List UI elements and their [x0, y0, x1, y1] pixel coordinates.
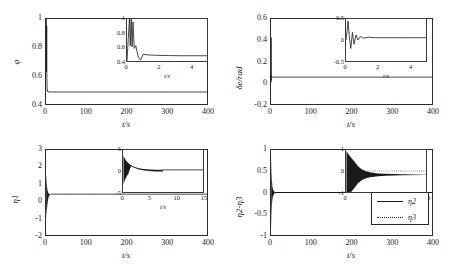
xlabel-eta1-text: t/s — [122, 250, 130, 260]
ytick-delta-02: 0.2 — [241, 58, 267, 66]
xlabel-phi: t/s — [122, 119, 130, 129]
ytick-eta1-inset-5: 5 — [103, 146, 121, 153]
ylabel-eta1: η1 — [10, 195, 20, 204]
plot-eta1-inset — [123, 150, 203, 192]
ylabel-delta-text: δe/rad — [234, 66, 244, 89]
ylabel-phi-text: φ — [11, 60, 21, 65]
inset-phi: 1 0.8 0.6 0.4 0 2 4 t/s — [116, 17, 209, 64]
xtick-eta1-300: 300 — [161, 239, 173, 247]
legend-entry-eta3: η3 — [372, 209, 428, 225]
ytick-phi-08: 0.8 — [20, 43, 42, 51]
xtick-delta-400: 400 — [427, 108, 439, 116]
ytick-eta23-05: 0.5 — [241, 167, 267, 175]
xtick-delta-inset-4: 4 — [409, 64, 412, 71]
xtick-eta1-inset-0: 0 — [120, 195, 123, 202]
xlabel-delta-text: t/s — [347, 119, 355, 129]
axes-delta-inset — [345, 18, 427, 62]
xlabel-eta1: t/s — [122, 250, 130, 260]
ytick-eta1-3: 3 — [22, 145, 42, 153]
ytick-phi-inset-04: 0.4 — [107, 59, 125, 66]
ylabel-eta1-text: η1 — [10, 195, 20, 204]
xlabel-eta23: t/s — [347, 250, 355, 260]
ytick-delta-04: 0.4 — [241, 36, 267, 44]
xtick-eta1-inset-5: 5 — [148, 195, 151, 202]
ytick-eta23-m05: -0.5 — [241, 210, 267, 218]
ytick-eta23-inset-m1: -1 — [326, 190, 344, 197]
ytick-delta-inset-m05: -0.5 — [324, 59, 344, 66]
ytick-delta-m02: -0.2 — [241, 101, 267, 109]
ytick-phi-04: 0.4 — [20, 101, 42, 109]
xtick-eta23-400: 400 — [427, 239, 439, 247]
xtick-eta1-inset-15: 15 — [201, 195, 208, 202]
legend-line-solid-icon — [377, 201, 403, 202]
xtick-phi-400: 400 — [202, 108, 214, 116]
legend-label-eta3: η3 — [408, 213, 416, 222]
xtick-phi-inset-4: 4 — [190, 64, 193, 71]
xlabel-eta23-text: t/s — [347, 250, 355, 260]
xtick-phi-inset-2: 2 — [157, 64, 160, 71]
xtick-delta-0: 0 — [268, 108, 272, 116]
ytick-eta1-0: 0 — [22, 197, 42, 205]
ylabel-eta23: η2-η3 — [234, 197, 244, 218]
xtick-eta1-200: 200 — [121, 239, 133, 247]
xtick-eta23-inset-0: 0 — [343, 195, 346, 202]
ytick-phi-inset-06: 0.6 — [107, 44, 125, 51]
ylabel-eta23-text: η2-η3 — [234, 197, 244, 218]
plot-phi-inset — [127, 19, 207, 61]
xlabel-delta: t/s — [347, 119, 355, 129]
ytick-phi-06: 0.6 — [20, 72, 42, 80]
ylabel-phi: φ — [11, 60, 21, 65]
panel-eta2-eta3: 1 0.5 0 -0.5 -1 0 100 200 300 400 t/s η2… — [225, 131, 449, 263]
ylabel-delta: δe/rad — [234, 66, 244, 89]
ytick-eta23-m1: -1 — [241, 232, 267, 240]
legend-line-dotted-icon — [377, 217, 403, 218]
xtick-phi-inset-0: 0 — [124, 64, 127, 71]
panel-delta-e: 0.6 0.4 0.2 0 -0.2 0 100 200 300 400 t/s… — [225, 0, 449, 132]
legend-entry-eta2: η2 — [372, 193, 428, 209]
legend-eta23: η2 η3 — [371, 192, 429, 225]
xlabel-eta1-inset: t/s — [160, 203, 166, 210]
plot-eta23-inset — [346, 150, 426, 192]
xlabel-delta-inset: t/s — [383, 72, 389, 79]
xtick-delta-200: 200 — [346, 108, 358, 116]
panel-phi: 1 0.8 0.6 0.4 0 100 200 300 400 t/s φ 1 … — [0, 0, 224, 132]
ytick-phi-1: 1 — [20, 14, 42, 22]
xtick-eta1-inset-10: 10 — [173, 195, 180, 202]
xtick-eta23-0: 0 — [268, 239, 272, 247]
ytick-eta1-1: 1 — [22, 180, 42, 188]
axes-eta1-inset — [122, 149, 204, 193]
xtick-eta1-100: 100 — [80, 239, 92, 247]
xtick-eta23-300: 300 — [386, 239, 398, 247]
ytick-eta1-inset-0: 0 — [103, 168, 121, 175]
xtick-eta1-0: 0 — [43, 239, 47, 247]
panel-eta1: 3 2 1 0 -1 -2 0 100 200 300 400 t/s η1 5… — [0, 131, 224, 263]
xtick-phi-100: 100 — [80, 108, 92, 116]
xtick-eta23-100: 100 — [305, 239, 317, 247]
legend-label-eta2: η2 — [408, 197, 416, 206]
ytick-eta23-1: 1 — [241, 145, 267, 153]
xtick-delta-100: 100 — [305, 108, 317, 116]
xtick-phi-0: 0 — [43, 108, 47, 116]
ytick-delta-06: 0.6 — [241, 14, 267, 22]
ytick-phi-inset-1: 1 — [107, 15, 125, 21]
inset-delta: 0.5 0 -0.5 0 2 4 t/s — [335, 17, 428, 64]
xtick-phi-200: 200 — [121, 108, 133, 116]
axes-eta23-inset — [345, 149, 427, 193]
ytick-eta23-inset-0: 0 — [326, 168, 344, 175]
ytick-eta23-inset-1: 1 — [326, 146, 344, 153]
xtick-delta-300: 300 — [386, 108, 398, 116]
xlabel-phi-inset: t/s — [164, 72, 170, 79]
xlabel-phi-text: t/s — [122, 119, 130, 129]
plot-delta-inset — [346, 19, 426, 61]
ytick-eta1-inset-m5: -5 — [103, 190, 121, 197]
xtick-eta23-200: 200 — [346, 239, 358, 247]
ytick-eta23-0: 0 — [241, 189, 267, 197]
ytick-eta1-m1: -1 — [22, 215, 42, 223]
figure-four-panel-simulation: 1 0.8 0.6 0.4 0 100 200 300 400 t/s φ 1 … — [0, 0, 449, 265]
axes-phi-inset — [126, 18, 208, 62]
xtick-delta-inset-0: 0 — [343, 64, 346, 71]
inset-eta23: 1 0 -1 0 5 10 t/s — [335, 148, 428, 195]
xtick-eta1-400: 400 — [202, 239, 214, 247]
ytick-eta1-2: 2 — [22, 162, 42, 170]
ytick-eta1-m2: -2 — [22, 232, 42, 240]
